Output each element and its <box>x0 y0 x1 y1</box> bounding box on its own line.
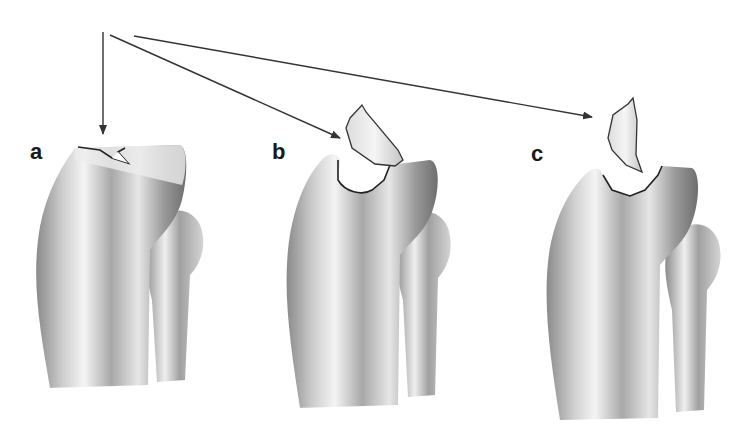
arrow-to-b <box>110 35 340 138</box>
fracture-diagram <box>0 0 752 439</box>
panel-label-a: a <box>30 141 42 163</box>
panel-label-b: b <box>272 141 285 163</box>
bone-panel-c <box>540 98 740 439</box>
fragment-c <box>608 98 642 172</box>
fragment-b <box>346 105 403 166</box>
panel-label-c: c <box>531 143 543 165</box>
bone-panel-a <box>30 145 210 400</box>
bone-panel-b <box>280 105 460 420</box>
arrow-group <box>103 32 592 138</box>
